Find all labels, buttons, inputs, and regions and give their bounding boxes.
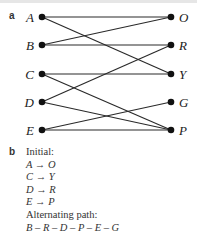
panel-b-label: b bbox=[9, 146, 15, 157]
node-G bbox=[168, 99, 175, 106]
node-label-Y: Y bbox=[179, 67, 188, 82]
panel-b-text: Initial: A → O C → Y D → R E → P Alterna… bbox=[26, 146, 119, 232]
matching-item: D → R bbox=[26, 184, 119, 197]
node-label-G: G bbox=[179, 95, 189, 110]
node-label-B: B bbox=[26, 38, 34, 53]
node-B bbox=[39, 42, 46, 49]
node-R bbox=[168, 42, 175, 49]
node-C bbox=[39, 71, 46, 78]
matching-item: E → P bbox=[26, 196, 119, 209]
node-label-A: A bbox=[25, 10, 34, 25]
path-heading: Alternating path: bbox=[26, 209, 119, 222]
node-label-P: P bbox=[178, 123, 187, 138]
edge-B-O bbox=[42, 17, 171, 45]
alternating-path: B – R – D – P – E – G bbox=[26, 222, 119, 232]
node-P bbox=[168, 127, 175, 134]
node-D bbox=[39, 99, 46, 106]
node-O bbox=[168, 14, 175, 21]
node-Y bbox=[168, 71, 175, 78]
edge-C-P bbox=[42, 74, 171, 130]
matching-item: C → Y bbox=[26, 171, 119, 184]
node-label-C: C bbox=[25, 67, 34, 82]
bipartite-graph: ABCDEORYGP bbox=[0, 0, 197, 145]
node-label-D: D bbox=[24, 95, 35, 110]
initial-heading: Initial: bbox=[26, 146, 119, 159]
matching-item: A → O bbox=[26, 159, 119, 172]
node-A bbox=[39, 14, 46, 21]
node-label-E: E bbox=[25, 123, 34, 138]
node-E bbox=[39, 127, 46, 134]
node-label-O: O bbox=[179, 10, 189, 25]
node-label-R: R bbox=[178, 38, 187, 53]
